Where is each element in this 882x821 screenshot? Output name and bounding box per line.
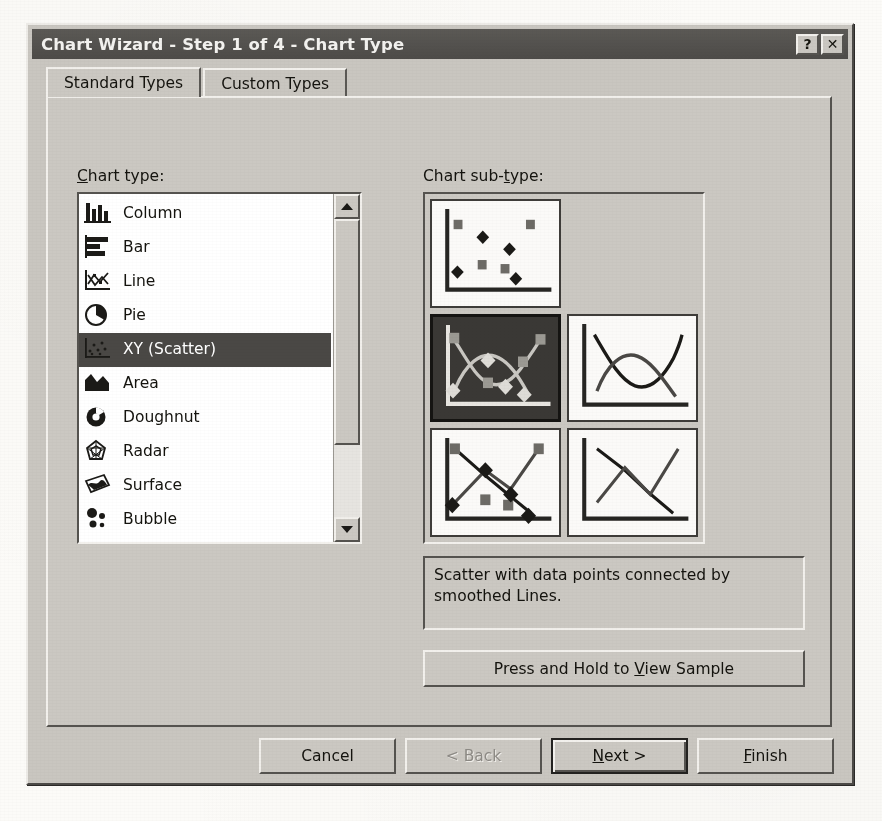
subtype-empty-slot bbox=[567, 199, 698, 308]
list-item-label: Line bbox=[123, 274, 155, 290]
scrollbar-track[interactable] bbox=[334, 219, 360, 517]
chart-type-scrollbar[interactable] bbox=[333, 194, 360, 542]
column-chart-icon bbox=[84, 201, 112, 227]
back-button-label: < Back bbox=[446, 747, 502, 765]
finish-button[interactable]: Finish bbox=[697, 738, 834, 774]
list-item-label: Radar bbox=[123, 444, 169, 460]
bar-chart-icon bbox=[84, 235, 112, 261]
list-item-area[interactable]: Area bbox=[79, 367, 333, 401]
close-button[interactable]: ✕ bbox=[821, 34, 844, 55]
finish-button-label: Finish bbox=[743, 747, 787, 765]
subtype-scatter-straight-lines[interactable] bbox=[567, 428, 698, 537]
scroll-down-icon bbox=[341, 526, 353, 533]
tab-label: Standard Types bbox=[64, 74, 183, 92]
surface-chart-icon bbox=[84, 473, 112, 499]
scroll-down-button[interactable] bbox=[334, 517, 360, 542]
subtype-scatter-straight-lines-markers[interactable] bbox=[430, 428, 561, 537]
subtype-scatter-markers-only[interactable] bbox=[430, 199, 561, 308]
press-and-hold-to-view-sample-button[interactable]: Press and Hold to View Sample bbox=[423, 650, 805, 687]
list-item-radar[interactable]: Radar bbox=[79, 435, 333, 469]
line-chart-icon bbox=[84, 269, 112, 295]
sample-button-label: Press and Hold to View Sample bbox=[494, 660, 734, 678]
standard-types-panel: Chart type: Column bbox=[46, 96, 832, 727]
list-item-bubble[interactable]: Bubble bbox=[79, 503, 333, 537]
list-item-label: Column bbox=[123, 206, 182, 222]
list-item-bar[interactable]: Bar bbox=[79, 231, 333, 265]
radar-chart-icon bbox=[84, 439, 112, 465]
list-item-label: XY (Scatter) bbox=[123, 342, 216, 358]
subtype-scatter-smoothed-lines[interactable] bbox=[567, 314, 698, 423]
chart-type-listbox[interactable]: Column Bar bbox=[77, 192, 362, 544]
cancel-button[interactable]: Cancel bbox=[259, 738, 396, 774]
chart-subtype-description: Scatter with data points connected by sm… bbox=[423, 556, 805, 630]
doughnut-chart-icon bbox=[84, 405, 112, 431]
list-item-label: Area bbox=[123, 376, 159, 392]
scroll-up-icon bbox=[341, 203, 353, 210]
tab-strip: Standard Types Custom Types bbox=[46, 67, 832, 97]
next-button[interactable]: Next > bbox=[551, 738, 688, 774]
tab-custom-types[interactable]: Custom Types bbox=[203, 68, 347, 97]
list-item-line[interactable]: Line bbox=[79, 265, 333, 299]
chart-subtype-grid bbox=[430, 199, 698, 537]
list-item-xy-scatter[interactable]: XY (Scatter) bbox=[79, 333, 331, 367]
area-chart-icon bbox=[84, 371, 112, 397]
help-button[interactable]: ? bbox=[796, 34, 819, 55]
scrollbar-thumb[interactable] bbox=[334, 219, 360, 445]
back-button: < Back bbox=[405, 738, 542, 774]
window-title: Chart Wizard - Step 1 of 4 - Chart Type bbox=[41, 35, 794, 54]
list-item-label: Bar bbox=[123, 240, 150, 256]
chart-type-list-items: Column Bar bbox=[79, 194, 333, 542]
cancel-button-label: Cancel bbox=[301, 747, 354, 765]
list-item-column[interactable]: Column bbox=[79, 197, 333, 231]
bubble-chart-icon bbox=[84, 507, 112, 533]
title-bar[interactable]: Chart Wizard - Step 1 of 4 - Chart Type … bbox=[32, 29, 848, 59]
scroll-up-button[interactable] bbox=[334, 194, 360, 219]
next-button-label: Next > bbox=[592, 747, 646, 765]
list-item-pie[interactable]: Pie bbox=[79, 299, 333, 333]
list-item-label: Pie bbox=[123, 308, 146, 324]
dialog-footer: Cancel < Back Next > Finish bbox=[32, 733, 848, 779]
chart-wizard-dialog: Chart Wizard - Step 1 of 4 - Chart Type … bbox=[26, 23, 854, 785]
chart-type-label: Chart type: bbox=[77, 167, 164, 185]
list-item-surface[interactable]: Surface bbox=[79, 469, 333, 503]
chart-subtype-box bbox=[423, 192, 705, 544]
pie-chart-icon bbox=[84, 303, 112, 329]
list-item-doughnut[interactable]: Doughnut bbox=[79, 401, 333, 435]
tab-label: Custom Types bbox=[221, 75, 329, 93]
scatter-chart-icon bbox=[84, 337, 112, 363]
tab-standard-types[interactable]: Standard Types bbox=[46, 67, 201, 97]
chart-subtype-label: Chart sub-type: bbox=[423, 167, 544, 185]
subtype-scatter-smoothed-lines-markers[interactable] bbox=[430, 314, 561, 423]
list-item-label: Bubble bbox=[123, 512, 177, 528]
list-item-label: Doughnut bbox=[123, 410, 200, 426]
list-item-label: Surface bbox=[123, 478, 182, 494]
